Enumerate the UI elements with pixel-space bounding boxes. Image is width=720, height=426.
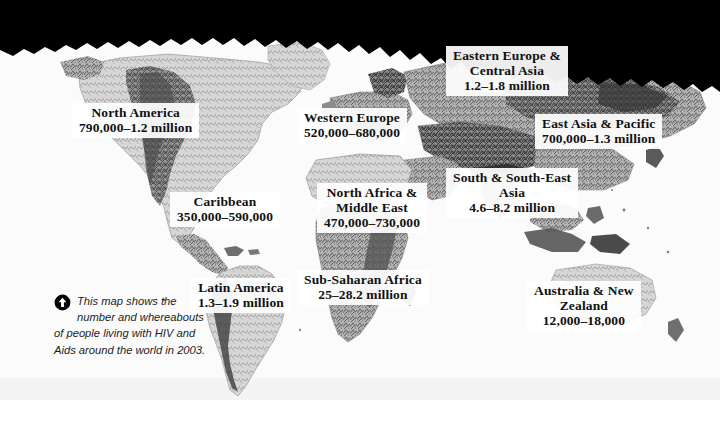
region-value: 790,000–1.2 million [79,120,192,135]
map-caption-text: This map shows the number and whereabout… [54,293,206,358]
region-name: Eastern Europe & [453,48,561,63]
region-name: Caribbean [177,194,273,209]
region-label-western-europe: Western Europe 520,000–680,000 [297,108,407,143]
island-speck [623,209,626,212]
region-name: Western Europe [304,110,400,125]
region-name: Latin America [198,280,284,295]
region-value: 1.2–1.8 million [453,78,561,93]
region-label-east-asia-pacific: East Asia & Pacific 700,000–1.3 million [535,114,662,149]
island-speck [299,329,301,331]
region-label-south-south-east-asia: South & South-East Asia 4.6–8.2 million [446,168,578,218]
region-name: North America [79,105,192,120]
landmass-hispaniola [248,249,260,255]
map-figure-page: North America 790,000–1.2 million Wester… [0,0,720,426]
region-label-north-africa-middle-east: North Africa & Middle East 470,000–730,0… [317,183,427,233]
region-name: East Asia & Pacific [542,116,655,131]
region-label-north-america: North America 790,000–1.2 million [72,103,199,138]
map-bottom-strip [0,400,720,426]
region-value: 1.3–1.9 million [198,295,284,310]
island-speck [611,189,613,191]
region-name: North Africa & [324,185,420,200]
region-name-line2: Zealand [534,298,634,313]
region-label-sub-saharan-africa: Sub-Saharan Africa 25–28.2 million [297,270,429,305]
region-name: Sub-Saharan Africa [304,272,422,287]
island-speck [667,251,670,254]
island-speck [647,227,649,229]
region-value: 350,000–590,000 [177,209,273,224]
map-southern-haze [0,378,720,400]
region-value: 520,000–680,000 [304,125,400,140]
circle-up-arrow-icon [54,294,71,311]
map-caption: This map shows the number and whereabout… [54,293,206,358]
region-name-line2: Central Asia [453,63,561,78]
region-name-line2: Asia [453,185,571,200]
region-label-eastern-europe-central-asia: Eastern Europe & Central Asia 1.2–1.8 mi… [446,46,568,96]
region-value: 700,000–1.3 million [542,131,655,146]
region-value: 25–28.2 million [304,287,422,302]
region-value: 12,000–18,000 [534,313,634,328]
region-value: 470,000–730,000 [324,215,420,230]
region-name-line2: Middle East [324,200,420,215]
region-name: South & South-East [453,170,571,185]
region-value: 4.6–8.2 million [453,200,571,215]
region-name: Australia & New [534,283,634,298]
region-label-australia-new-zealand: Australia & New Zealand 12,000–18,000 [527,281,641,331]
region-label-caribbean: Caribbean 350,000–590,000 [170,192,280,227]
